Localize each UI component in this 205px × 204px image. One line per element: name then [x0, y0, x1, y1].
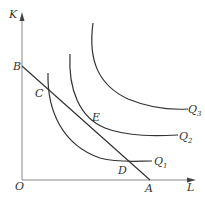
origin-label: O: [15, 180, 24, 193]
q1-label: Q1: [154, 155, 168, 170]
point-a-label: A: [144, 182, 153, 195]
k-axis-arrow-icon: [20, 12, 25, 21]
point-c-label: C: [35, 87, 44, 100]
l-axis-label: L: [186, 181, 194, 194]
point-d-label: D: [117, 164, 127, 177]
point-b-label: B: [12, 60, 21, 73]
isocost-line-ba: [22, 66, 150, 180]
isoquant-q3: [92, 23, 188, 109]
k-axis-label: K: [8, 8, 18, 21]
q2-label: Q2: [179, 130, 193, 145]
point-e-label: E: [91, 111, 100, 124]
q3-label: Q3: [188, 103, 202, 118]
isoquant-diagram: K O L B A C E D Q1 Q2 Q3: [0, 0, 205, 204]
